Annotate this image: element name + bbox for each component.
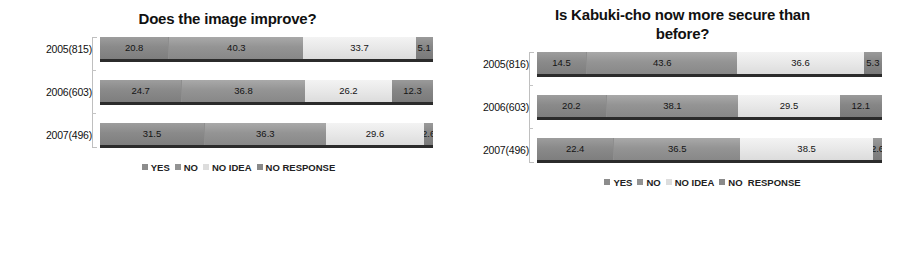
legend-item-yes[interactable]: YES <box>604 177 632 188</box>
legend-left: YESNONO IDEANO RESPONSE <box>0 162 455 173</box>
bar-segment-noidea: 26.2 <box>305 80 392 102</box>
legend-swatch-noidea <box>203 164 209 170</box>
stacked-bar: 31.536.329.62.6 <box>100 123 433 148</box>
bar-segment-noidea: 38.5 <box>740 138 873 160</box>
legend-item-noidea[interactable]: NO IDEA <box>203 162 252 173</box>
segment-value: 31.5 <box>143 128 162 139</box>
stacked-bar: 22.436.538.52.6 <box>537 138 882 163</box>
plot-area-right: 2005(816)14.543.636.65.32006(603)20.238.… <box>455 52 910 163</box>
segment-value: 29.5 <box>780 100 799 111</box>
segment-value: 20.2 <box>562 100 581 111</box>
legend-label: NO RESPONSE <box>266 162 336 173</box>
chart-panel-image-improve: Does the image improve? 2005(815)20.840.… <box>0 0 455 268</box>
category-label: 2005(815) <box>26 43 100 55</box>
segment-value: 5.3 <box>866 57 879 68</box>
bar-segment-noidea: 29.6 <box>326 123 425 145</box>
segment-value: 36.5 <box>668 143 687 154</box>
legend-swatch-no <box>175 164 181 170</box>
chart-panel-kabukicho-secure: Is Kabuki-cho now more secure than befor… <box>455 0 910 268</box>
chart-row: 2006(603)24.736.826.212.3 <box>26 80 455 105</box>
bar-segment-noresp: 12.3 <box>392 80 433 102</box>
axis-tick <box>529 128 533 129</box>
segment-value: 43.6 <box>653 57 672 68</box>
category-label: 2005(816) <box>459 58 537 70</box>
segment-value: 22.4 <box>566 143 585 154</box>
axis-cap-bottom <box>92 147 97 148</box>
legend-swatch-yes <box>142 164 148 170</box>
bar-segment-noresp: 5.1 <box>416 37 433 59</box>
category-label: 2007(496) <box>26 129 100 141</box>
bar-segment-no: 43.6 <box>587 52 737 74</box>
row-gap <box>459 120 910 138</box>
bar-segment-noidea: 33.7 <box>303 37 415 59</box>
axis-tick <box>529 85 533 86</box>
legend-label: NO <box>184 162 198 173</box>
row-gap <box>26 62 455 80</box>
category-label: 2006(603) <box>26 86 100 98</box>
chart-title-right: Is Kabuki-cho now more secure than befor… <box>455 0 910 44</box>
legend-label: NO IDEA <box>212 162 252 173</box>
segment-value: 36.8 <box>234 85 253 96</box>
legend-swatch-noresp <box>719 179 725 185</box>
category-label: 2007(496) <box>459 144 537 156</box>
legend-label: NO RESPONSE <box>728 177 800 188</box>
segment-value: 2.6 <box>424 128 433 139</box>
chart-row: 2006(603)20.238.129.512.1 <box>459 95 910 120</box>
stacked-bar: 24.736.826.212.3 <box>100 80 433 105</box>
legend-label: YES <box>613 177 632 188</box>
bar-segment-yes: 14.5 <box>537 52 587 74</box>
segment-value: 40.3 <box>227 42 246 53</box>
bar-segment-noresp: 2.6 <box>424 123 433 145</box>
axis-tick <box>92 70 96 71</box>
bar-segment-noresp: 5.3 <box>864 52 882 74</box>
segment-value: 2.6 <box>873 143 882 154</box>
segment-value: 20.8 <box>125 42 144 53</box>
legend-swatch-noidea <box>666 179 672 185</box>
segment-value: 36.3 <box>256 128 275 139</box>
legend-item-no[interactable]: NO <box>175 162 198 173</box>
bar-segment-noidea: 36.6 <box>737 52 863 74</box>
segment-value: 24.7 <box>131 85 150 96</box>
bar-segment-yes: 20.8 <box>100 37 169 59</box>
segment-value: 36.6 <box>791 57 810 68</box>
legend-swatch-yes <box>604 179 610 185</box>
chart-row: 2007(496)22.436.538.52.6 <box>459 138 910 163</box>
segment-value: 29.6 <box>366 128 385 139</box>
row-gap <box>459 77 910 95</box>
chart-row: 2007(496)31.536.329.62.6 <box>26 123 455 148</box>
legend-swatch-noresp <box>257 164 263 170</box>
segment-value: 38.1 <box>663 100 682 111</box>
axis-tick <box>92 113 96 114</box>
category-label: 2006(603) <box>459 101 537 113</box>
bar-segment-yes: 22.4 <box>537 138 614 160</box>
legend-item-yes[interactable]: YES <box>142 162 170 173</box>
segment-value: 26.2 <box>339 85 358 96</box>
segment-value: 12.1 <box>852 100 871 111</box>
stacked-bar: 20.840.333.75.1 <box>100 37 433 62</box>
segment-value: 5.1 <box>418 42 431 53</box>
legend-label: NO <box>646 177 660 188</box>
chart-row: 2005(815)20.840.333.75.1 <box>26 37 455 62</box>
stacked-bar: 20.238.129.512.1 <box>537 95 882 120</box>
bar-segment-yes: 31.5 <box>100 123 205 145</box>
legend-item-no[interactable]: NO <box>637 177 660 188</box>
bar-segment-no: 38.1 <box>607 95 738 117</box>
legend-item-noresp[interactable]: NO RESPONSE <box>257 162 336 173</box>
category-axis-left: 2005(815)20.840.333.75.12006(603)24.736.… <box>26 37 455 148</box>
legend-label: YES <box>151 162 170 173</box>
chart-row: 2005(816)14.543.636.65.3 <box>459 52 910 77</box>
stacked-bar-chart-pair: Does the image improve? 2005(815)20.840.… <box>0 0 910 268</box>
bar-segment-noresp: 12.1 <box>840 95 882 117</box>
legend-item-noidea[interactable]: NO IDEA <box>666 177 715 188</box>
bar-segment-noresp: 2.6 <box>873 138 882 160</box>
category-axis-right: 2005(816)14.543.636.65.32006(603)20.238.… <box>459 52 910 163</box>
legend-label: NO IDEA <box>675 177 715 188</box>
bar-segment-no: 36.5 <box>614 138 740 160</box>
bar-segment-no: 40.3 <box>169 37 303 59</box>
legend-right: YESNONO IDEANO RESPONSE <box>455 177 910 188</box>
segment-value: 38.5 <box>797 143 816 154</box>
bar-segment-yes: 24.7 <box>100 80 182 102</box>
legend-swatch-no <box>637 179 643 185</box>
stacked-bar: 14.543.636.65.3 <box>537 52 882 77</box>
legend-item-noresp[interactable]: NO RESPONSE <box>719 177 800 188</box>
